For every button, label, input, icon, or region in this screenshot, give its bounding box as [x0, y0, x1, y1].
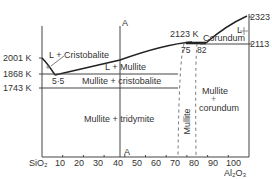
region-l-corundum: Corundum: [203, 34, 245, 43]
region-l-cristobalite: L + Cristobalite: [49, 51, 109, 60]
temp-label-2123: 2123 K: [170, 30, 199, 39]
temp-label-2113: 2113 K: [250, 40, 272, 49]
x-tick-70: 70: [170, 159, 180, 168]
temp-label-1868: 1868 K: [3, 70, 32, 79]
temp-label-1743: 1743 K: [3, 84, 32, 93]
x-tick-90: 90: [208, 159, 218, 168]
temp-label-2323: 2323 K: [250, 13, 272, 22]
x-tick-10: 10: [55, 159, 65, 168]
region-l-mullite: L + Mullite: [105, 63, 146, 72]
phase-diagram: [0, 0, 272, 179]
region-mullite-corundum-2: corundum: [199, 104, 239, 113]
section-a-bottom: A: [124, 148, 130, 157]
composition-75: 75: [181, 46, 190, 55]
x-tick-80: 80: [189, 159, 199, 168]
eutectic-composition: 5·5: [52, 77, 64, 86]
x-label-al2o3: Al₂O₃: [224, 169, 246, 178]
temp-label-2001: 2001 K: [3, 54, 32, 63]
mullite-boundary-82: [196, 44, 197, 157]
x-tick-30: 30: [93, 159, 103, 168]
x-tick-40: 40: [113, 159, 123, 168]
composition-82: 82: [197, 46, 206, 55]
region-mullite-tridymite: Mullite + tridymite: [84, 115, 154, 124]
cristobalite-liquidus: [42, 58, 55, 75]
x-tick-50: 50: [132, 159, 142, 168]
region-mullite: Mullite: [183, 108, 192, 134]
x-tick-60: 60: [151, 159, 161, 168]
x-label-sio2: SiO₂: [29, 159, 48, 168]
x-tick-100: 100: [226, 159, 241, 168]
section-a-top: A: [122, 19, 128, 28]
region-mullite-cristobalite: Mullite + cristobalite: [82, 77, 161, 86]
mullite-boundary-75: [178, 44, 184, 157]
x-tick-20: 20: [74, 159, 84, 168]
